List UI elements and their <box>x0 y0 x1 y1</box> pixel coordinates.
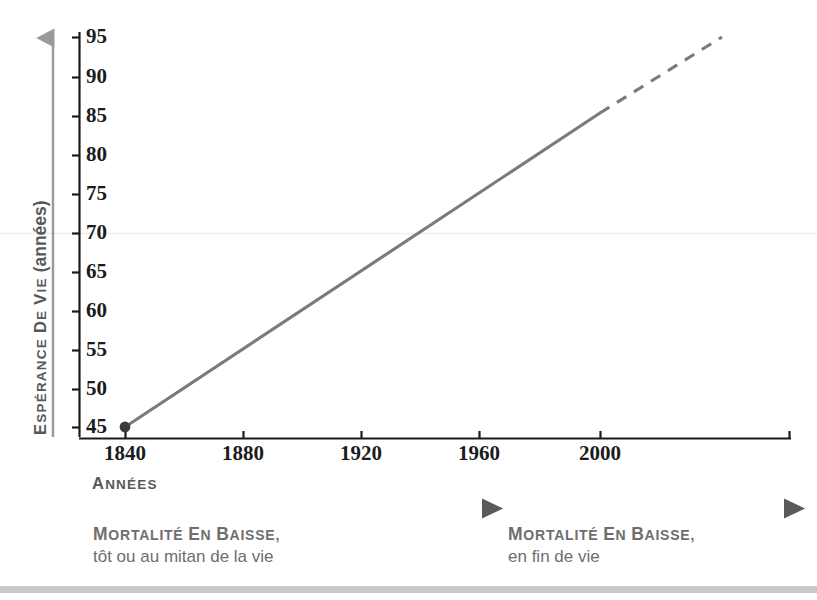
y-tick-label: 50 <box>86 376 107 400</box>
x-tick-label: 1960 <box>458 441 500 465</box>
annotation-phase-one: MORTALITÉ EN BAISSE, tôt ou au mitan de … <box>93 524 280 566</box>
x-tick-label: 2000 <box>579 441 621 465</box>
annotation-headline: MORTALITÉ EN BAISSE, <box>93 524 280 544</box>
y-tick-label: 75 <box>86 181 107 205</box>
y-tick-labels: 95 90 85 80 75 70 65 60 55 50 45 <box>86 24 107 438</box>
series-projected <box>600 37 722 113</box>
y-tick-label: 85 <box>86 103 107 127</box>
y-tick-label: 95 <box>86 24 107 48</box>
y-tick-label: 55 <box>86 337 107 361</box>
y-tick-label: 90 <box>86 64 107 88</box>
y-tick-label: 45 <box>86 414 107 438</box>
y-axis-title: ESPÉRANCE DE VIE (années) <box>30 200 50 435</box>
y-tick-label: 80 <box>86 142 107 166</box>
y-axis <box>72 32 80 437</box>
x-tick-label: 1840 <box>104 441 146 465</box>
x-tick-label: 1880 <box>222 441 264 465</box>
y-tick-label: 70 <box>86 220 107 244</box>
series-observed <box>120 113 600 432</box>
y-tick-label: 65 <box>86 259 107 283</box>
x-axis-title: ANNÉES <box>92 474 158 492</box>
annotation-phase-two: MORTALITÉ EN BAISSE, en fin de vie <box>508 524 695 566</box>
data-point-marker-1840 <box>120 422 131 433</box>
life-expectancy-figure: 95 90 85 80 75 70 65 60 55 50 45 1840 18… <box>0 0 817 600</box>
annotation-subline: en fin de vie <box>508 547 600 566</box>
x-tick-label: 1920 <box>340 441 382 465</box>
x-tick-labels: 1840 1880 1920 1960 2000 <box>104 441 621 465</box>
y-tick-label: 60 <box>86 298 107 322</box>
bottom-divider-bar <box>0 586 817 593</box>
annotation-headline: MORTALITÉ EN BAISSE, <box>508 524 695 544</box>
annotation-subline: tôt ou au mitan de la vie <box>93 547 274 566</box>
chart-canvas: 95 90 85 80 75 70 65 60 55 50 45 1840 18… <box>0 0 817 600</box>
x-axis <box>79 431 791 439</box>
